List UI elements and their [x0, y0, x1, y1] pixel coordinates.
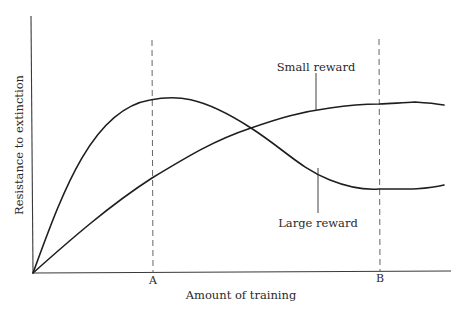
x-axis-title: Amount of training: [185, 288, 297, 302]
x-axis: [33, 271, 451, 273]
reference-line-a: [152, 40, 153, 273]
reference-line-b: [379, 39, 380, 272]
small-reward-curve: [33, 102, 444, 273]
y-axis-title: Resistance to extinction: [12, 74, 26, 215]
x-tick-b: B: [376, 272, 384, 285]
y-axis: [31, 16, 33, 273]
line-chart: Small reward Large reward A B Amount of …: [0, 0, 465, 313]
small-reward-label: Small reward: [277, 60, 356, 74]
large-reward-curve: [33, 98, 444, 273]
x-tick-a: A: [148, 274, 158, 287]
large-reward-label: Large reward: [278, 216, 358, 230]
